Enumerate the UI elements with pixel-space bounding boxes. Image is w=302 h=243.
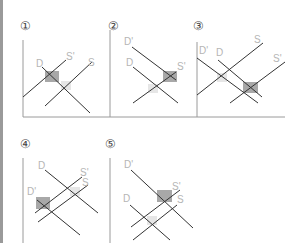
panel-1-d-label: D <box>36 58 43 69</box>
panel-3-d-prime-label: D' <box>199 45 208 56</box>
panel-1-number: ① <box>20 19 31 33</box>
panel-2-s-label: S' <box>177 61 186 72</box>
panel-1-s-label: S <box>88 57 95 68</box>
panel-5-s-label: S <box>177 194 184 205</box>
panel-3-s-label: S <box>254 34 261 45</box>
panel-1-s-line <box>45 62 92 106</box>
panel-2-d-label: D <box>126 57 133 68</box>
panel-4-d-label: D <box>38 160 45 171</box>
panel-5-d-prime-label: D' <box>124 159 133 170</box>
panel-4-number: ④ <box>20 137 31 151</box>
panel-5-s-prime-label: S' <box>172 181 181 192</box>
panel-3: ③ D' D S S' <box>193 19 285 117</box>
panel-4-s-label: S <box>82 177 89 188</box>
panel-1-s-prime-label: S' <box>66 51 75 62</box>
panel-2-d-prime-label: D' <box>124 36 133 47</box>
panel-3-number: ③ <box>193 19 204 33</box>
panel-4-d-line <box>45 170 98 213</box>
supply-demand-diagrams: ① D S' S ② D' D S' ③ D' D S S' <box>0 0 302 243</box>
panel-1-light-shade <box>61 81 71 90</box>
panel-3-d-label: D <box>216 47 223 58</box>
panel-2-s-line <box>133 72 176 103</box>
panel-5-d-label: D <box>123 193 130 204</box>
panel-1-d-line <box>42 67 90 113</box>
panel-5: ⑤ D' S' S D <box>105 137 193 243</box>
panel-3-s-prime-label: S' <box>273 53 282 64</box>
panel-5-d-prime-line <box>131 170 193 228</box>
panel-3-s-prime-line <box>230 62 285 103</box>
panel-5-number: ⑤ <box>105 137 116 151</box>
panel-1: ① D S' S <box>20 19 95 117</box>
panel-4: ④ D S' S D' <box>20 137 98 243</box>
panel-3-d-prime-line <box>197 58 258 103</box>
panel-2-d-prime-line <box>132 47 176 80</box>
panel-5-d-line <box>130 205 170 240</box>
panel-1-s-prime-line <box>23 60 66 97</box>
panel-5-s-line <box>133 205 177 240</box>
panel-4-d-prime-label: D' <box>27 186 36 197</box>
panel-2: ② D' D S' <box>108 19 186 117</box>
